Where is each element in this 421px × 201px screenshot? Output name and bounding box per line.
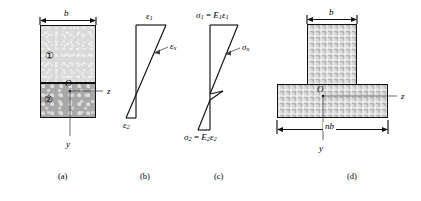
strain-diagram-graphic (118, 0, 198, 201)
stress-top-label: σ1 = E1ε1 (196, 11, 229, 21)
caption-c: (c) (214, 172, 223, 181)
strain-bottom-label: ε2 (123, 121, 130, 131)
strain-top-label: ε1 (146, 12, 153, 22)
axis-label-z-a: z (107, 87, 111, 96)
caption-a: (a) (58, 172, 67, 181)
stress-diagram-graphic (190, 0, 290, 201)
transformed-section-panel: b O z y nb (d) (285, 0, 421, 201)
cross-section-panel: b ① ② O z y (a) (0, 0, 120, 201)
strain-curve-label: εx (170, 42, 176, 52)
axis-label-y-a: y (66, 140, 70, 149)
stress-curve-label: σx (242, 43, 249, 53)
figure-composite-beam: b ① ② O z y (a) (0, 0, 421, 201)
stress-bottom-label: σ2 = E2ε2 (184, 133, 217, 143)
dimension-label-nb: nb (323, 122, 336, 131)
caption-d: (d) (347, 172, 357, 181)
stress-distribution-panel: σ1 = E1ε1 σ2 = E2ε2 σx (c) (190, 0, 290, 201)
caption-b: (b) (140, 172, 150, 181)
strain-distribution-panel: ε1 ε2 εx (b) (118, 0, 198, 201)
